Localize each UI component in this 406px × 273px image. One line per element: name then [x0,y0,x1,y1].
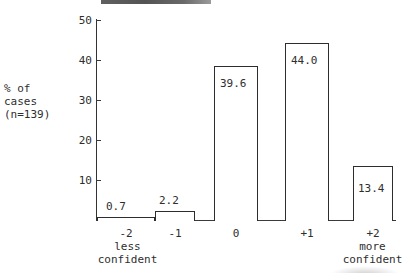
y-tick-label-50: 50 [52,15,92,26]
x-tick-label-minus-1: -1 [150,228,200,240]
scan-artifact-bar [101,0,211,4]
scan-edge-shadow [330,266,400,273]
x-tick-label-plus-2: +2 [348,228,398,240]
bar-value-minus-1: 2.2 [159,195,179,206]
bar-minus-2 [97,217,155,221]
bar-minus-1 [155,211,195,221]
x-tick-label-minus-2: -2 [101,228,151,240]
x-sublabel-more-confident-line-2: confident [343,253,403,266]
x-sublabel-less-confident: less confident [75,241,180,266]
bar-value-plus-1: 44.0 [291,55,318,66]
y-tick-30 [96,100,101,101]
y-tick-10 [96,180,101,181]
y-tick-20 [96,140,101,141]
bar-value-zero: 39.6 [220,78,247,89]
x-sublabel-more-confident-line-1: more [359,240,386,253]
y-axis-title-line-1: % of [4,82,31,95]
y-axis-title-line-3: (n=139) [4,108,50,121]
x-sublabel-less-confident-line-2: confident [98,253,158,266]
x-sublabel-more-confident: more confident [320,241,406,266]
bar-value-plus-2: 13.4 [358,183,385,194]
x-sublabel-less-confident-line-1: less [114,240,141,253]
x-tick-label-zero: 0 [211,228,261,240]
y-axis-title: % of cases (n=139) [4,82,50,121]
bar-value-minus-2: 0.7 [106,201,126,212]
y-tick-50 [96,20,101,21]
y-axis-title-line-2: cases [4,95,37,108]
y-tick-label-20: 20 [52,135,92,146]
y-tick-label-10: 10 [52,175,92,186]
bar-plus-1 [285,43,329,221]
y-axis-line [96,19,97,221]
y-tick-label-40: 40 [52,55,92,66]
y-tick-40 [96,60,101,61]
y-tick-label-30: 30 [52,95,92,106]
x-tick-label-plus-1: +1 [282,228,332,240]
